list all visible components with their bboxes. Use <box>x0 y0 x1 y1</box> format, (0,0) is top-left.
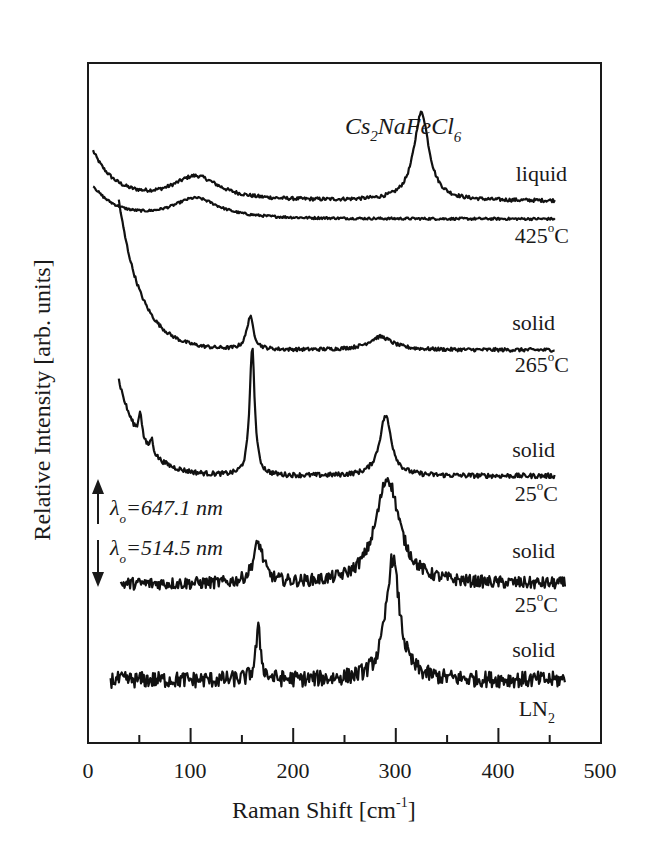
raman-spectra-figure: 0 100 200 300 400 500 Raman Shift [cm-1]… <box>0 0 649 849</box>
x-axis-label: Raman Shift [cm-1] <box>232 795 416 823</box>
lambda-514-label: λo=514.5 nm <box>109 535 223 566</box>
trace-0 <box>93 112 555 203</box>
lambda-647-label: λo=647.1 nm <box>109 495 223 526</box>
x-tick-100: 100 <box>174 758 207 783</box>
label-solid-25b: solid <box>512 538 555 563</box>
label-265C: 265oC <box>515 349 569 377</box>
x-tick-200: 200 <box>277 758 310 783</box>
trace-labels: liquid 425oC solid 265oC solid 25oC soli… <box>512 161 569 726</box>
x-tick-500: 500 <box>584 758 617 783</box>
x-axis-tick-labels: 0 100 200 300 400 500 <box>83 758 617 783</box>
label-LN2: LN2 <box>519 696 555 726</box>
label-solid-ln2: solid <box>512 637 555 662</box>
x-axis-ticks <box>139 728 549 743</box>
x-tick-400: 400 <box>482 758 515 783</box>
y-axis-label: Relative Intensity [arb. units] <box>29 259 55 540</box>
arrow-up-icon <box>92 479 104 524</box>
label-liquid: liquid <box>516 161 567 186</box>
trace-1 <box>93 187 555 220</box>
label-25Ca: 25oC <box>515 478 558 506</box>
arrow-down-icon <box>92 540 104 587</box>
trace-3 <box>119 349 555 478</box>
label-425C: 425oC <box>515 220 569 248</box>
x-tick-300: 300 <box>379 758 412 783</box>
excitation-annotations: λo=647.1 nm λo=514.5 nm <box>92 479 223 587</box>
x-tick-0: 0 <box>83 758 94 783</box>
spectra-traces <box>93 112 565 688</box>
chart-title: Cs2NaFeCl6 <box>345 113 462 145</box>
label-solid-25a: solid <box>512 437 555 462</box>
label-25Cb: 25oC <box>515 589 558 617</box>
trace-2 <box>119 200 555 352</box>
label-solid-265: solid <box>512 310 555 335</box>
